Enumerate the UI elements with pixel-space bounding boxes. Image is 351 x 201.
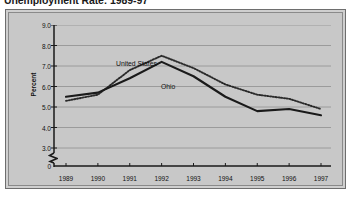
x-axis-tick-label: 1996: [282, 175, 296, 182]
chart-panel: Percent 9.08.07.06.05.04.03.00 198919901…: [5, 9, 346, 189]
chart-figure: Unemployment Rate: 1989-97 Percent 9.08.…: [0, 0, 351, 201]
x-axis-tick-label: 1994: [218, 175, 232, 182]
axis-break-icon: [50, 153, 58, 163]
x-axis-tick-labels: 198919901991199219931994199519961997: [54, 175, 331, 189]
series-label-ohio: Ohio: [161, 83, 175, 90]
series-label-united-states: United States: [116, 60, 157, 67]
y-axis-group: [48, 25, 58, 173]
x-axis-tick-label: 1990: [91, 175, 105, 182]
plot-svg: [54, 25, 331, 173]
x-axis-tick-label: 1997: [314, 175, 328, 182]
x-axis-tick-label: 1989: [59, 175, 73, 182]
x-axis-tick-label: 1993: [186, 175, 200, 182]
x-axis-tick-label: 1991: [123, 175, 137, 182]
x-axis-tick-label: 1995: [250, 175, 264, 182]
chart-panel-inner: Percent 9.08.07.06.05.04.03.00 198919901…: [8, 12, 343, 186]
series-line-united-states: [66, 56, 321, 109]
page-title: Unemployment Rate: 1989-97: [4, 0, 148, 6]
x-axis-tick-label: 1992: [154, 175, 168, 182]
plot-area: [54, 25, 331, 173]
